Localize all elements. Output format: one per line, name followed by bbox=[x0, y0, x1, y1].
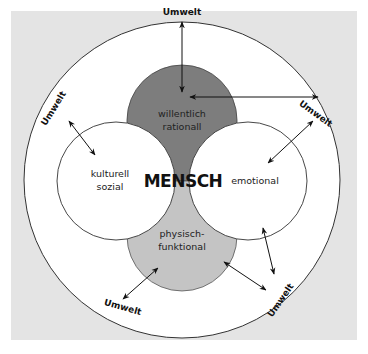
label-sozial: sozial bbox=[97, 181, 124, 192]
label-kulturell: kulturell bbox=[91, 168, 129, 179]
umwelt-label-top: Umwelt bbox=[163, 7, 202, 17]
mensch-umwelt-diagram: willentlich rationall kulturell sozial e… bbox=[0, 0, 368, 354]
label-willentlich: willentlich bbox=[158, 108, 206, 119]
label-emotional: emotional bbox=[231, 175, 279, 186]
label-physisch: physisch- bbox=[160, 228, 205, 239]
center-label-mensch: MENSCH bbox=[144, 171, 223, 191]
label-rationall: rationall bbox=[162, 121, 201, 132]
label-funktional: funktional bbox=[158, 241, 206, 252]
